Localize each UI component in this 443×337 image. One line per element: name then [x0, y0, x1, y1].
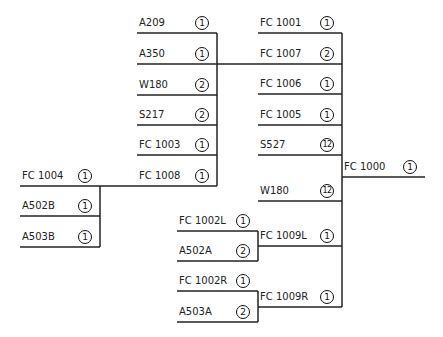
- part-label: S527: [260, 139, 285, 151]
- part-label: W180: [139, 79, 168, 91]
- quantity-badge: 2: [195, 78, 209, 92]
- quantity-badge: 12: [320, 184, 334, 198]
- quantity-badge: 1: [236, 214, 250, 228]
- quantity-badge: 1: [195, 169, 209, 183]
- part-label: A503B: [22, 231, 55, 243]
- quantity-badge: 12: [320, 138, 334, 152]
- part-label: FC 1006: [260, 78, 301, 90]
- part-label: A502B: [22, 200, 55, 212]
- quantity-badge: 1: [320, 229, 334, 243]
- bom-tree-diagram: A2091A3501W1802S2172FC 10031FC 10081FC 1…: [0, 0, 443, 337]
- quantity-badge: 1: [195, 138, 209, 152]
- quantity-badge: 1: [320, 290, 334, 304]
- quantity-badge: 1: [320, 16, 334, 30]
- part-label: FC 1000: [344, 161, 385, 173]
- part-label: FC 1001: [260, 17, 301, 29]
- quantity-badge: 2: [236, 305, 250, 319]
- quantity-badge: 1: [78, 230, 92, 244]
- part-label: FC 1005: [260, 109, 301, 121]
- quantity-badge: 2: [195, 108, 209, 122]
- quantity-badge: 2: [320, 47, 334, 61]
- part-label: FC 1002L: [179, 215, 226, 227]
- part-label: W180: [260, 185, 289, 197]
- quantity-badge: 1: [78, 169, 92, 183]
- quantity-badge: 1: [195, 47, 209, 61]
- part-label: S217: [139, 109, 164, 121]
- part-label: A350: [139, 48, 165, 60]
- part-label: FC 1009L: [260, 230, 307, 242]
- quantity-badge: 1: [320, 77, 334, 91]
- quantity-badge: 1: [236, 274, 250, 288]
- part-label: A502A: [179, 245, 212, 257]
- part-label: FC 1002R: [179, 275, 227, 287]
- quantity-badge: 1: [320, 108, 334, 122]
- quantity-badge: 1: [195, 16, 209, 30]
- part-label: FC 1004: [22, 170, 63, 182]
- part-label: FC 1009R: [260, 291, 308, 303]
- part-label: A209: [139, 17, 165, 29]
- quantity-badge: 1: [403, 160, 417, 174]
- part-label: FC 1003: [139, 139, 180, 151]
- part-label: FC 1008: [139, 170, 180, 182]
- part-label: A503A: [179, 306, 212, 318]
- part-label: FC 1007: [260, 48, 301, 60]
- quantity-badge: 1: [78, 199, 92, 213]
- quantity-badge: 2: [236, 244, 250, 258]
